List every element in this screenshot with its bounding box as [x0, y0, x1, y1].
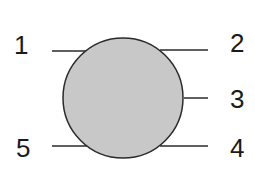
component-body [63, 38, 183, 158]
pin-diagram: 12345 [0, 0, 255, 179]
pin-4-label: 4 [230, 133, 244, 163]
pin-5-label: 5 [16, 133, 30, 163]
pin-1-label: 1 [14, 30, 28, 60]
pin-3-label: 3 [230, 84, 244, 114]
pin-2-label: 2 [230, 28, 244, 58]
